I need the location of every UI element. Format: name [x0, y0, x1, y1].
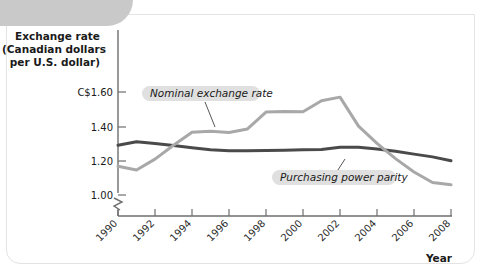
x-tick-label-1998: 1998 [242, 218, 268, 244]
x-tick-label-1992: 1992 [131, 218, 157, 244]
x-tick-label-2000: 2000 [279, 218, 305, 244]
series-label-nominal-exchange-rate: Nominal exchange rate [150, 87, 273, 99]
y-tick-label-120: 1.20 [91, 156, 113, 167]
x-tick-label-2004: 2004 [353, 218, 379, 244]
y-axis-title-line-1: Exchange rate [15, 30, 100, 42]
y-tick-label-160: C$1.60 [77, 87, 113, 98]
x-tick-label-2002: 2002 [316, 218, 342, 244]
y-axis-break-icon [114, 198, 122, 210]
series-label-purchasing-power-parity: Purchasing power parity [280, 171, 408, 183]
chart-figure: Exchange rate (Canadian dollars per U.S.… [0, 0, 487, 276]
y-tick-label-100: 1.00 [91, 190, 113, 201]
x-tick-label-1996: 1996 [205, 218, 231, 244]
y-axis-title-line-2: (Canadian dollars [2, 43, 106, 55]
leader-line-nominal [205, 102, 215, 127]
x-tick-label-2008: 2008 [427, 218, 453, 244]
x-axis-title: Year [425, 252, 453, 264]
y-tick-label-140: 1.40 [91, 122, 113, 133]
y-axis-title-line-3: per U.S. dollar) [10, 56, 100, 68]
x-tick-marks [118, 209, 451, 216]
x-tick-label-2006: 2006 [390, 218, 416, 244]
x-tick-label-1990: 1990 [94, 218, 120, 244]
x-tick-label-1994: 1994 [168, 218, 194, 244]
